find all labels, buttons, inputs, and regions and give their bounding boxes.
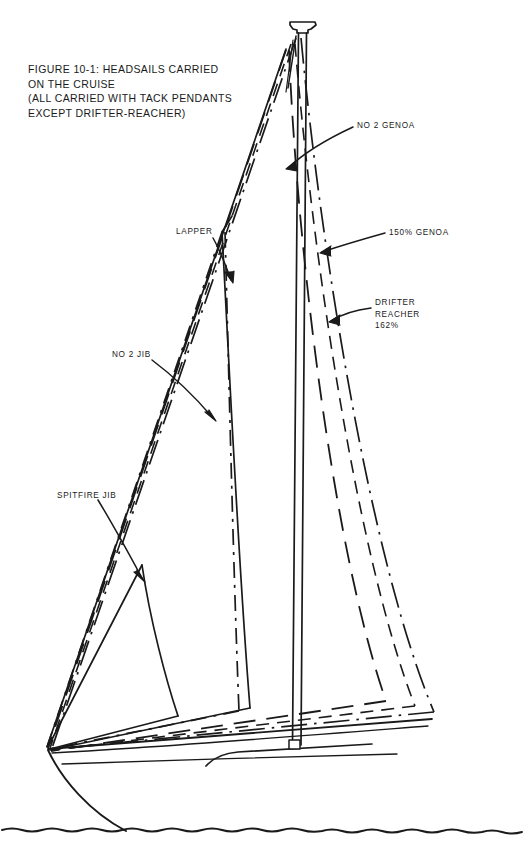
no2jib-leech	[225, 232, 239, 711]
waterline	[2, 829, 522, 834]
label-drifter-reacher: DRIFTER REACHER 162%	[375, 297, 420, 332]
sail-no2-genoa	[48, 50, 386, 751]
genoa150-luff	[50, 44, 291, 748]
deck-lower-line	[52, 726, 428, 753]
drifter-leech	[301, 38, 434, 712]
spitfire-luff	[48, 565, 142, 747]
figure-page: FIGURE 10-1: HEADSAILS CARRIED ON THE CR…	[0, 0, 526, 857]
sail-drifter-reacher	[52, 38, 434, 749]
sail-150-genoa	[50, 44, 415, 750]
arrowhead-150-genoa	[320, 246, 331, 256]
figure-title: FIGURE 10-1: HEADSAILS CARRIED ON THE CR…	[28, 62, 232, 120]
label-lapper: LAPPER	[176, 227, 213, 236]
mast-step-box	[289, 740, 300, 749]
label-no2-genoa: NO 2 GENOA	[357, 121, 415, 130]
mast-fwd-edge	[293, 33, 299, 745]
arrowhead-drifter-reacher	[329, 315, 340, 325]
hull-group	[48, 719, 432, 831]
arrowhead-no2-jib	[205, 410, 216, 421]
no2jib-luff	[47, 232, 222, 747]
label-spitfire-jib: SPITFIRE JIB	[57, 491, 116, 500]
label-no2-jib: NO 2 JIB	[112, 350, 151, 359]
label-150-genoa: 150% GENOA	[389, 228, 449, 237]
drifter-luff	[52, 38, 296, 748]
leader-150-genoa	[322, 233, 385, 252]
sail-lapper	[47, 49, 286, 750]
arrowhead-no2-genoa	[286, 161, 297, 171]
masthead-crane-icon	[290, 22, 316, 33]
leader-spitfire-jib	[98, 500, 142, 578]
sailplan-drawing	[0, 0, 526, 857]
sail-spitfire-jib	[48, 565, 178, 749]
hull-waterline-edge	[62, 754, 397, 764]
spitfire-leech	[142, 565, 178, 716]
